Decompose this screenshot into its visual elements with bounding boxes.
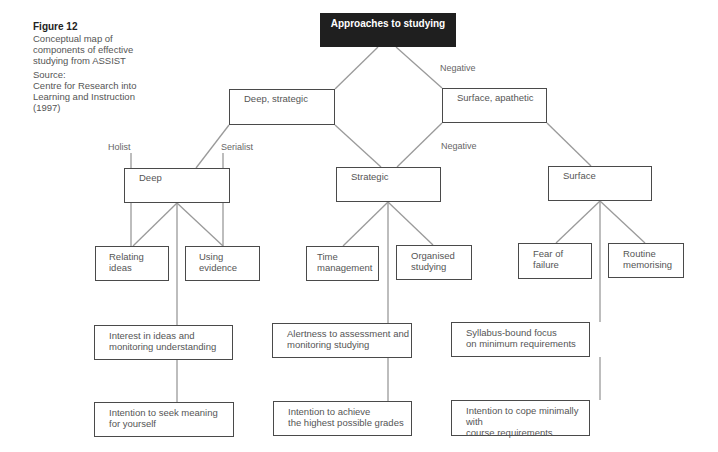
edge-surface-routine bbox=[600, 201, 645, 243]
node-surface-apathetic: Surface, apathetic bbox=[442, 88, 547, 123]
edge-root-deep-strategic bbox=[335, 47, 378, 89]
node-routine-memorising: Routine memorising bbox=[608, 243, 684, 278]
edge-deepstrategic-strategic bbox=[335, 125, 381, 167]
node-alertness-to-assessment: Alertness to assessment and monitoring s… bbox=[272, 323, 412, 358]
node-syllabus-bound-focus: Syllabus-bound focus on minimum requirem… bbox=[451, 322, 590, 357]
node-strategic: Strategic bbox=[336, 167, 441, 202]
node-organised-studying: Organised studying bbox=[396, 245, 472, 280]
node-interest-in-ideas: Interest in ideas and monitoring underst… bbox=[94, 325, 233, 360]
edge-surface-fear bbox=[556, 201, 600, 243]
node-intention-cope-minimally: Intention to cope minimally with course … bbox=[451, 400, 590, 436]
connector-lines bbox=[0, 0, 718, 452]
edge-label-negative-top: Negative bbox=[440, 63, 476, 73]
edge-root-surface-apathetic bbox=[396, 47, 442, 88]
node-approaches-to-studying: Approaches to studying bbox=[320, 13, 456, 47]
node-intention-highest-grades: Intention to achieve the highest possibl… bbox=[273, 401, 412, 436]
node-intention-seek-meaning: Intention to seek meaning for yourself bbox=[94, 402, 234, 437]
edge-deep-relating bbox=[133, 203, 177, 246]
node-time-management: Time management bbox=[306, 246, 379, 281]
edge-deep-using bbox=[177, 203, 223, 246]
node-surface: Surface bbox=[548, 166, 652, 201]
edge-strategic-organised bbox=[388, 202, 433, 245]
node-deep: Deep bbox=[124, 168, 230, 203]
edge-label-holist: Holist bbox=[108, 142, 131, 152]
edge-label-negative-mid: Negative bbox=[441, 141, 477, 151]
edge-surfaceapathetic-strategic bbox=[397, 123, 442, 167]
node-fear-of-failure: Fear of failure bbox=[518, 243, 592, 279]
node-deep-strategic: Deep, strategic bbox=[229, 89, 335, 125]
node-relating-ideas: Relating ideas bbox=[95, 246, 169, 281]
node-using-evidence: Using evidence bbox=[185, 246, 260, 281]
edge-label-serialist: Serialist bbox=[221, 142, 253, 152]
edge-surfaceapathetic-surface bbox=[547, 123, 591, 166]
edge-strategic-time bbox=[343, 202, 388, 246]
